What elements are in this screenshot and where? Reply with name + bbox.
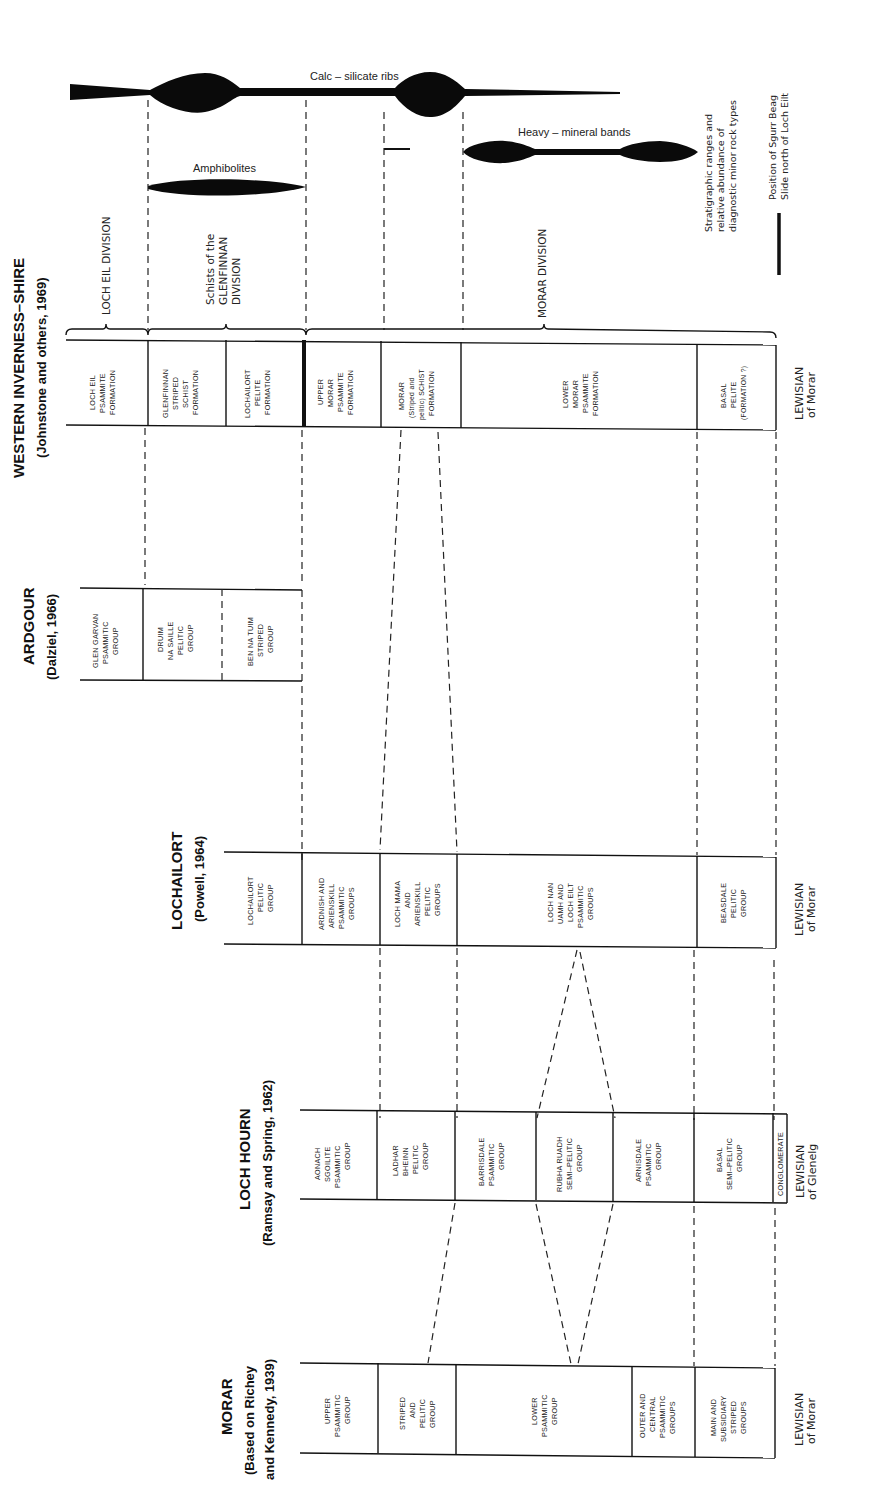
svg-text:AND: AND [403, 892, 412, 908]
svg-text:SGOILITE: SGOILITE [323, 1146, 332, 1182]
svg-text:MORAR: MORAR [397, 382, 406, 410]
svg-text:BEASDALE: BEASDALE [719, 883, 728, 923]
svg-text:CONGLOMERATE: CONGLOMERATE [776, 1132, 785, 1196]
svg-text:AONACH: AONACH [313, 1147, 322, 1180]
svg-text:PSAMMITIC: PSAMMITIC [540, 1394, 549, 1437]
svg-text:PSAMMITIC: PSAMMITIC [487, 1143, 496, 1186]
svg-text:GROUP: GROUP [739, 889, 748, 917]
column-source: (Ramsay and Spring, 1962) [260, 1080, 275, 1246]
column-source: (Johnstone and others, 1969) [34, 277, 49, 458]
svg-text:UPPER: UPPER [316, 379, 325, 405]
amphibolites-label: Amphibolites [193, 162, 256, 174]
svg-text:PELITIC: PELITIC [256, 883, 265, 912]
svg-text:GROUP: GROUP [266, 625, 275, 653]
svg-text:GROUP: GROUP [343, 1396, 352, 1424]
svg-text:BASAL: BASAL [719, 383, 728, 408]
correlation-lines-3 [428, 1203, 775, 1366]
svg-text:PSAMMITIC: PSAMMITIC [644, 1143, 653, 1186]
svg-text:LOCH EIL DIVISION: LOCH EIL DIVISION [100, 216, 112, 315]
svg-text:GROUP: GROUP [654, 1142, 663, 1170]
svg-text:STRIPED: STRIPED [256, 624, 265, 657]
svg-text:(FORMATION ?): (FORMATION ?) [740, 366, 748, 420]
svg-text:of Morar: of Morar [805, 885, 818, 932]
svg-text:of Morar: of Morar [805, 371, 818, 418]
svg-text:CENTRAL: CENTRAL [648, 1396, 657, 1432]
svg-text:Schists of the: Schists of the [204, 234, 216, 305]
column-source: (Powell, 1964) [192, 836, 207, 922]
svg-text:PSAMMITIC: PSAMMITIC [333, 1145, 342, 1188]
svg-text:DIVISION: DIVISION [230, 258, 242, 305]
division-brace [66, 324, 776, 338]
svg-text:BASAL: BASAL [715, 1147, 724, 1172]
svg-text:PELITE: PELITE [253, 379, 262, 406]
svg-text:MAIN AND: MAIN AND [709, 1399, 718, 1436]
column-ardgour: ARDGOUR (Dalziel, 1966) GLEN GARVAN PSAM… [20, 587, 302, 860]
svg-text:Slide north of Loch Eilt: Slide north of Loch Eilt [779, 93, 790, 200]
column-morar: MORAR (Based on Richey and Kennedy, 1939… [218, 1359, 818, 1480]
svg-text:PELITIC: PELITIC [411, 1145, 420, 1174]
svg-text:FORMATION: FORMATION [427, 371, 436, 416]
svg-text:OUTER AND: OUTER AND [638, 1393, 647, 1438]
svg-text:SEMI–PELITIC: SEMI–PELITIC [565, 1138, 574, 1190]
svg-text:Position of Sgurr Beag: Position of Sgurr Beag [767, 95, 778, 200]
svg-text:GLEN GARVAN: GLEN GARVAN [91, 613, 100, 668]
svg-text:PSAMMITE: PSAMMITE [581, 373, 590, 413]
svg-text:NA SAILLE: NA SAILLE [166, 621, 175, 660]
svg-text:relative abundance of: relative abundance of [715, 127, 726, 232]
svg-text:of Glenelg: of Glenelg [806, 1144, 819, 1200]
svg-text:AND: AND [408, 1402, 417, 1418]
column-lochailort: LOCHAILORT (Powell, 1964) LOCHAILORT PEL… [168, 832, 818, 948]
heavy-mineral-label: Heavy – mineral bands [518, 126, 631, 138]
svg-text:FORMATION: FORMATION [346, 370, 355, 415]
svg-text:SUBSIDIARY: SUBSIDIARY [719, 1396, 728, 1442]
svg-text:GROUP: GROUP [575, 1144, 584, 1172]
svg-text:LADHAR: LADHAR [391, 1145, 400, 1176]
svg-text:BHEINN: BHEINN [401, 1147, 410, 1176]
column-title: WESTERN INVERNESS–SHIRE [10, 258, 27, 478]
svg-text:GROUPS: GROUPS [739, 1401, 748, 1434]
svg-text:PSAMMITIC: PSAMMITIC [101, 621, 110, 664]
svg-text:GROUP: GROUP [111, 627, 120, 655]
svg-text:LOCHAILORT: LOCHAILORT [243, 369, 252, 418]
correlation-diagram: Calc – silicate ribs Amphibolites Heavy … [0, 0, 874, 1499]
svg-text:FORMATION: FORMATION [191, 370, 200, 415]
svg-text:GROUPS: GROUPS [668, 1401, 677, 1434]
svg-text:UAMH AND: UAMH AND [556, 884, 565, 924]
svg-text:GROUP: GROUP [421, 1142, 430, 1170]
svg-text:PSAMMITIC: PSAMMITIC [576, 885, 585, 928]
svg-text:RUBHA RUADH: RUBHA RUADH [555, 1136, 564, 1192]
top-band-guides [148, 100, 463, 330]
svg-text:BARRISDALE: BARRISDALE [477, 1137, 486, 1186]
svg-text:SEMI–PELITIC: SEMI–PELITIC [725, 1138, 734, 1190]
column-title: LOCH HOURN [236, 1108, 253, 1210]
svg-text:LOCH EIL: LOCH EIL [88, 375, 97, 410]
legend: Stratigraphic ranges and relative abunda… [703, 93, 790, 275]
correlation-lines-1 [145, 428, 776, 855]
svg-text:LOWER: LOWER [561, 380, 570, 408]
svg-text:STRIPED: STRIPED [171, 377, 180, 410]
svg-text:BEN NA TUIM: BEN NA TUIM [246, 617, 255, 666]
svg-text:STRIPED: STRIPED [398, 1397, 407, 1430]
svg-text:GROUP: GROUP [497, 1142, 506, 1170]
svg-text:PELITIC: PELITIC [176, 626, 185, 655]
svg-text:Stratigraphic ranges and: Stratigraphic ranges and [703, 114, 714, 232]
svg-text:GROUP: GROUP [266, 884, 275, 912]
svg-text:ARIENSKILL: ARIENSKILL [413, 881, 422, 926]
svg-text:ARNISDALE: ARNISDALE [634, 1139, 643, 1182]
column-source: (Based on Richey [242, 1365, 257, 1475]
svg-text:GROUP: GROUP [428, 1400, 437, 1428]
svg-text:ARIENSKILL: ARIENSKILL [327, 883, 336, 928]
svg-text:MORAR: MORAR [326, 379, 335, 407]
svg-text:GLENFINNAN: GLENFINNAN [217, 237, 229, 305]
svg-text:PELITIC: PELITIC [423, 887, 432, 916]
division-labels: LOCH EIL DIVISION Schists of the GLENFIN… [100, 216, 548, 318]
svg-text:LOWER: LOWER [530, 1397, 539, 1425]
column-title: MORAR [218, 1378, 235, 1435]
svg-text:UPPER: UPPER [323, 1398, 332, 1424]
svg-text:GROUP: GROUP [186, 624, 195, 652]
svg-text:LOCH NAN: LOCH NAN [546, 882, 555, 922]
svg-text:PELITE: PELITE [729, 381, 738, 408]
svg-text:LOCHAILORT: LOCHAILORT [246, 876, 255, 925]
svg-text:STRIPED: STRIPED [729, 1401, 738, 1434]
svg-text:DRUIM: DRUIM [156, 627, 165, 652]
